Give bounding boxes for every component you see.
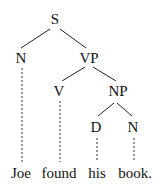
node-s: S [51,12,59,27]
node-v: V [54,84,65,99]
edge-s-n [21,29,50,48]
edge-s-vp [60,29,86,48]
word-joe: Joe [11,166,31,181]
node-vp: VP [79,51,98,66]
node-d: D [91,120,102,135]
edge-vp-np [93,67,116,81]
word-book: book. [118,166,152,181]
node-n-object: N [128,120,139,135]
word-found: found [42,166,77,181]
tree-edges [0,0,163,187]
node-np: NP [108,84,127,99]
edge-np-n [117,103,132,116]
edge-np-d [98,103,114,116]
edge-vp-v [62,67,85,81]
node-n-subject: N [16,51,27,66]
word-his: his [88,166,106,181]
